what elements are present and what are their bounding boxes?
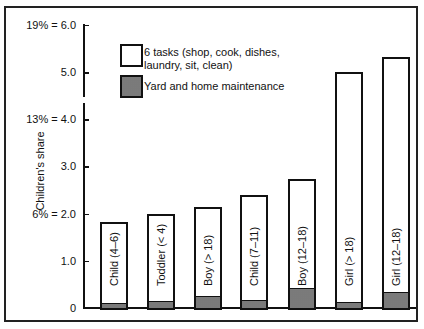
y-tick-label: 13% = 4.0 bbox=[6, 113, 76, 125]
bar: Toddler (< 4) bbox=[147, 214, 175, 310]
bar-segment-yard bbox=[290, 288, 314, 308]
y-axis-lower-segment bbox=[83, 103, 85, 309]
legend-label-tasks-line2: laundry, sit, clean) bbox=[144, 59, 280, 72]
y-tick-label: 19% = 6.0 bbox=[6, 19, 76, 31]
bar-segment-yard bbox=[196, 296, 220, 308]
bar-segment-yard bbox=[384, 292, 408, 308]
bar-category-label: Child (4–6) bbox=[108, 232, 120, 286]
bar-category-label: Boy (> 18) bbox=[202, 235, 214, 286]
y-tick-label: 3.0 bbox=[6, 160, 76, 172]
bar: Girl (> 18) bbox=[335, 72, 363, 310]
y-tick-label: 5.0 bbox=[6, 66, 76, 78]
y-tick-label: 6% = 2.0 bbox=[6, 208, 76, 220]
legend-label-tasks: 6 tasks (shop, cook, dishes, laundry, si… bbox=[144, 46, 280, 72]
bar-segment-yard bbox=[102, 303, 126, 308]
bar-category-label: Girl (12–18) bbox=[390, 228, 402, 286]
bar: Boy (> 18) bbox=[194, 207, 222, 310]
bar-segment-yard bbox=[337, 302, 361, 308]
bar-category-label: Boy (12–18) bbox=[296, 226, 308, 286]
bar-category-label: Toddler (< 4) bbox=[155, 224, 167, 286]
y-tick-label: 0 bbox=[6, 302, 76, 314]
bar: Child (4–6) bbox=[100, 222, 128, 310]
legend-swatch-tasks bbox=[120, 44, 143, 67]
bar: Boy (12–18) bbox=[288, 179, 316, 310]
bar: Child (7–11) bbox=[240, 195, 268, 310]
y-tick-label: 1.0 bbox=[6, 255, 76, 267]
bar-category-label: Girl (> 18) bbox=[343, 237, 355, 286]
bar-category-label: Child (7–11) bbox=[248, 227, 260, 286]
y-axis-upper-segment bbox=[83, 24, 85, 97]
legend-label-tasks-line1: 6 tasks (shop, cook, dishes, bbox=[144, 46, 280, 59]
legend-label-yard: Yard and home maintenance bbox=[144, 80, 284, 93]
bar-segment-yard bbox=[242, 300, 266, 308]
legend-swatch-yard bbox=[120, 75, 143, 98]
bar-segment-yard bbox=[149, 301, 173, 308]
bar: Girl (12–18) bbox=[382, 57, 410, 310]
